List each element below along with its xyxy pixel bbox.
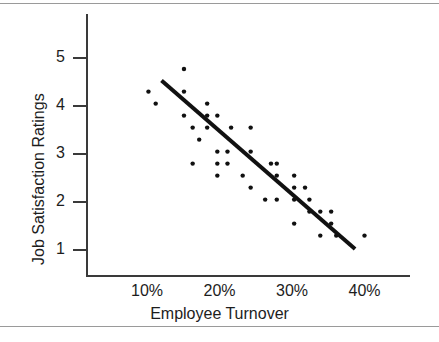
data-point — [225, 149, 229, 153]
data-point — [197, 137, 201, 141]
trend-line — [162, 81, 356, 249]
data-point — [215, 161, 219, 165]
chart-figure: 12345 10%20%30%40% Employee Turnover Job… — [0, 0, 439, 342]
data-points — [146, 67, 366, 238]
data-point — [269, 161, 273, 165]
data-point — [215, 173, 219, 177]
data-point — [229, 125, 233, 129]
data-point — [303, 185, 307, 189]
trend-line-segment — [162, 81, 356, 249]
data-point — [248, 149, 252, 153]
data-point — [182, 67, 186, 71]
data-point — [182, 89, 186, 93]
data-point — [248, 185, 252, 189]
data-point — [292, 173, 296, 177]
y-axis-title: Job Satisfaction Ratings — [30, 93, 48, 265]
data-point — [190, 161, 194, 165]
data-point — [182, 113, 186, 117]
data-point — [362, 233, 366, 237]
data-point — [154, 101, 158, 105]
data-point — [329, 209, 333, 213]
y-axis-ticks — [73, 58, 87, 250]
data-point — [190, 125, 194, 129]
data-point — [292, 221, 296, 225]
x-axis-tick-label: 10% — [117, 282, 177, 300]
data-point — [215, 113, 219, 117]
data-point — [215, 149, 219, 153]
data-point — [275, 197, 279, 201]
data-point — [146, 89, 150, 93]
data-point — [263, 197, 267, 201]
x-axis-tick-label: 30% — [262, 282, 322, 300]
data-point — [307, 197, 311, 201]
x-axis-tick-label: 40% — [335, 282, 395, 300]
data-point — [318, 209, 322, 213]
x-axis-title: Employee Turnover — [0, 305, 439, 323]
axes — [87, 14, 410, 277]
x-axis-tick-label: 20% — [190, 282, 250, 300]
data-point — [318, 233, 322, 237]
data-point — [241, 173, 245, 177]
y-axis-tick-label: 5 — [41, 48, 65, 66]
data-point — [248, 125, 252, 129]
data-point — [225, 161, 229, 165]
data-point — [275, 161, 279, 165]
data-point — [205, 125, 209, 129]
data-point — [205, 101, 209, 105]
data-point — [292, 185, 296, 189]
